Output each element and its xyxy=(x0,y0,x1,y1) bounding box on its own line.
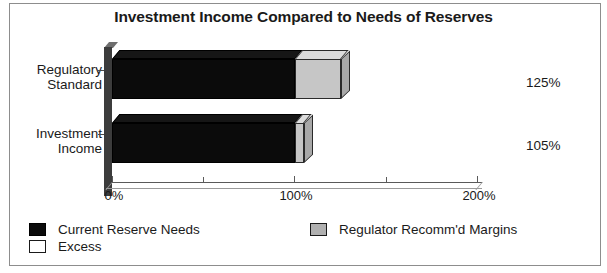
value-label-regulatory-standard: 125% xyxy=(526,75,561,90)
legend-label: Current Reserve Needs xyxy=(58,222,200,237)
x-axis-line xyxy=(112,182,482,183)
x-axis-tick-minor-150 xyxy=(386,177,387,183)
x-axis-tick-200 xyxy=(477,176,478,183)
bar-margin-front-face xyxy=(295,123,304,163)
bar-front-face xyxy=(112,123,295,163)
category-label-regulatory-standard: Regulatory Standard xyxy=(37,62,102,92)
x-axis-tick-100 xyxy=(294,176,295,183)
category-label-line2: Income xyxy=(36,141,102,156)
category-label-line1: Investment xyxy=(36,126,102,141)
bar-top-face xyxy=(112,114,303,123)
bar-margin-front-face xyxy=(295,59,341,99)
legend-item-current-reserve-needs: Current Reserve Needs xyxy=(29,222,200,237)
chart-figure: Investment Income Compared to Needs of R… xyxy=(0,0,607,273)
legend-swatch-gray-icon xyxy=(310,223,327,236)
category-label-line2: Standard xyxy=(37,77,102,92)
legend-divider xyxy=(10,265,601,266)
legend-swatch-black-icon xyxy=(29,223,46,236)
category-label-line1: Regulatory xyxy=(37,62,102,77)
legend-swatch-white-icon xyxy=(29,240,46,253)
category-label-investment-income: Investment Income xyxy=(36,126,102,156)
chart-legend: Current Reserve Needs Excess Regulator R… xyxy=(0,214,607,258)
chart-title: Investment Income Compared to Needs of R… xyxy=(0,8,607,26)
plot-area: Regulatory Standard Investment Income 0%… xyxy=(0,40,607,205)
legend-label: Regulator Recomm'd Margins xyxy=(339,222,517,237)
category-tick xyxy=(98,70,104,71)
bar-top-face xyxy=(112,50,303,59)
bar-front-face xyxy=(112,59,295,99)
bar-margin-side-face xyxy=(341,51,350,99)
legend-item-regulator-recommd-margins: Regulator Recomm'd Margins xyxy=(310,222,517,237)
legend-label: Excess xyxy=(58,239,102,254)
plot-wall-left xyxy=(104,47,112,196)
x-axis-tick-label-200: 200% xyxy=(462,188,495,203)
category-tick xyxy=(98,134,104,135)
legend-item-excess: Excess xyxy=(29,239,102,254)
bar-margin-side-face xyxy=(304,115,313,163)
x-axis-tick-minor-50 xyxy=(203,177,204,183)
x-axis-tick-0 xyxy=(112,176,113,183)
value-label-investment-income: 105% xyxy=(526,138,561,153)
x-axis-tick-label-100: 100% xyxy=(279,188,312,203)
x-axis-tick-label-0: 0% xyxy=(105,188,124,203)
